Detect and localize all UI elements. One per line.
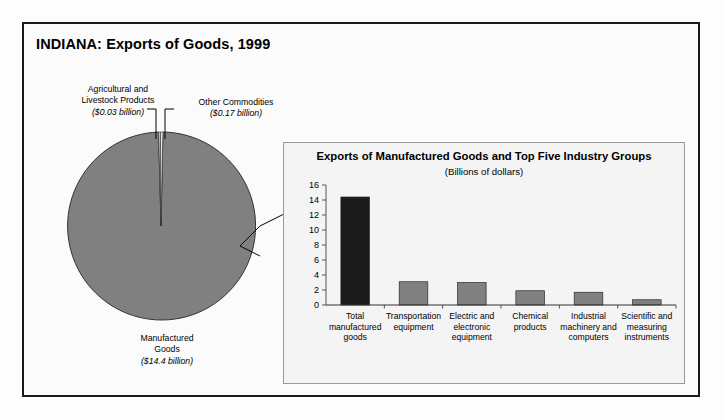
x-axis-category-line: Chemical (501, 311, 559, 322)
y-axis-tick-label: 16 (309, 180, 319, 190)
x-axis-category-line: electronic (443, 322, 501, 333)
bar-series (341, 197, 676, 309)
pie-label-manufactured-amount: ($14.4 billion) (104, 356, 230, 367)
x-axis-category-line: goods (326, 332, 384, 343)
x-axis-category-line: Transportation (384, 311, 442, 322)
bar (458, 283, 487, 306)
x-axis-category-line: Industrial (559, 311, 617, 322)
x-axis-category-line: Scientific and (618, 311, 676, 322)
pie-label-agricultural-amount: ($0.03 billion) (56, 107, 180, 118)
bar (574, 292, 603, 305)
pie-label-other-line1: Other Commodities (178, 97, 294, 108)
pie-label-manufactured-line1: Manufactured (104, 333, 230, 344)
x-axis-category-label: Electric andelectronicequipment (443, 311, 501, 343)
page-title: INDIANA: Exports of Goods, 1999 (36, 36, 270, 52)
x-axis-category-label: Industrialmachinery andcomputers (559, 311, 617, 343)
pie-label-agricultural: Agricultural and Livestock Products ($0.… (56, 84, 180, 118)
y-axis-tick-label: 4 (314, 270, 319, 280)
bar-chart-plot: 0246810121416 (284, 143, 686, 385)
x-axis-category-line: Electric and (443, 311, 501, 322)
x-axis-category-label: Chemicalproducts (501, 311, 559, 332)
x-axis-category-label: Transportationequipment (384, 311, 442, 332)
bar-chart-panel: Exports of Manufactured Goods and Top Fi… (283, 142, 685, 384)
y-axis-tick-label: 8 (314, 240, 319, 250)
bar (516, 291, 545, 305)
y-axis-tick-label: 14 (309, 195, 319, 205)
x-axis-category-line: manufactured (326, 322, 384, 333)
bar (341, 197, 370, 305)
x-axis-category-label: Scientific andmeasuringinstruments (618, 311, 676, 343)
pie-chart (66, 131, 256, 321)
pie-label-manufactured-line2: Goods (104, 344, 230, 355)
x-axis-category-line: equipment (443, 332, 501, 343)
x-axis-category-line: machinery and (559, 322, 617, 333)
y-axis-tick-label: 12 (309, 210, 319, 220)
x-axis-category-line: computers (559, 332, 617, 343)
y-axis-tick-label: 2 (314, 285, 319, 295)
pie-svg (66, 131, 256, 321)
x-axis-category-line: Total (326, 311, 384, 322)
x-axis-category-line: equipment (384, 322, 442, 333)
bar (633, 300, 662, 305)
pie-label-agricultural-line2: Livestock Products (56, 95, 180, 106)
bar (399, 282, 428, 305)
y-axis: 0246810121416 (309, 180, 326, 310)
x-axis-category-line: instruments (618, 332, 676, 343)
x-axis-category-line: measuring (618, 322, 676, 333)
x-axis-category-line: products (501, 322, 559, 333)
y-axis-tick-label: 10 (309, 225, 319, 235)
y-axis-tick-label: 0 (314, 300, 319, 310)
pie-label-other-amount: ($0.17 billion) (178, 108, 294, 119)
pie-label-manufactured: Manufactured Goods ($14.4 billion) (104, 333, 230, 367)
figure-root: INDIANA: Exports of Goods, 1999 Agricult… (0, 0, 723, 420)
y-axis-tick-label: 6 (314, 255, 319, 265)
x-axis-category-label: Totalmanufacturedgoods (326, 311, 384, 343)
pie-label-other-commodities: Other Commodities ($0.17 billion) (178, 97, 294, 120)
pie-label-agricultural-line1: Agricultural and (56, 84, 180, 95)
